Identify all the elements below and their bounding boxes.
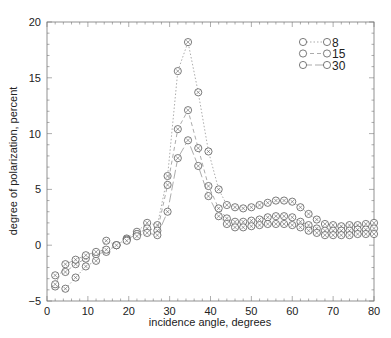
x-tick-label: 20 <box>123 305 135 317</box>
y-axis: −505101520 <box>28 16 374 307</box>
x-tick-label: 70 <box>327 305 339 317</box>
legend-item-30: 30 <box>299 59 345 73</box>
legend-marker <box>323 50 330 57</box>
series-8 <box>52 38 378 292</box>
legend-marker <box>299 38 306 45</box>
legend-label: 30 <box>332 59 346 73</box>
x-axis-label: incidence angle, degrees <box>149 316 272 328</box>
x-tick-label: 0 <box>44 305 50 317</box>
y-tick-label: 10 <box>29 128 41 140</box>
x-tick-label: 60 <box>286 305 298 317</box>
legend-marker <box>299 61 306 68</box>
series-15 <box>52 107 378 279</box>
series-layer <box>52 38 378 292</box>
series-30 <box>52 137 378 288</box>
legend-marker <box>323 61 330 68</box>
series-line <box>55 140 374 284</box>
x-tick-label: 80 <box>368 305 380 317</box>
polarization-chart: 01020304050607080 −505101520 81530 incid… <box>0 0 391 338</box>
legend: 81530 <box>299 36 345 73</box>
y-axis-label: degree of polarization, percent <box>7 87 19 236</box>
legend-marker <box>299 50 306 57</box>
y-tick-label: 0 <box>35 239 41 251</box>
legend-marker <box>323 38 330 45</box>
chart-canvas: 01020304050607080 −505101520 81530 incid… <box>0 0 391 338</box>
y-tick-label: 20 <box>29 16 41 28</box>
x-tick-label: 10 <box>82 305 94 317</box>
y-tick-label: −5 <box>28 295 41 307</box>
y-tick-label: 15 <box>29 72 41 84</box>
y-tick-label: 5 <box>35 183 41 195</box>
